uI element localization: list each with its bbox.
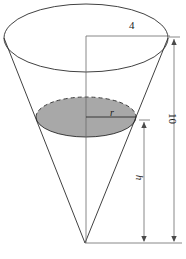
top-radius-label: 4	[129, 20, 135, 31]
inner-radius-label: r	[110, 108, 114, 118]
cone-left-slant-line	[4, 38, 85, 243]
total-height-arrow-up	[171, 39, 176, 45]
inner-height-arrow-up	[141, 122, 146, 128]
total-height-label: 10	[167, 113, 178, 124]
inner-height-label: h	[134, 175, 145, 181]
figure-canvas	[0, 0, 186, 259]
inner-height-arrow-down	[141, 236, 146, 242]
total-height-arrow-down	[171, 236, 176, 242]
cone-right-slant-line	[85, 38, 168, 243]
cone-geometry-figure: 4 r h 10	[0, 0, 186, 259]
